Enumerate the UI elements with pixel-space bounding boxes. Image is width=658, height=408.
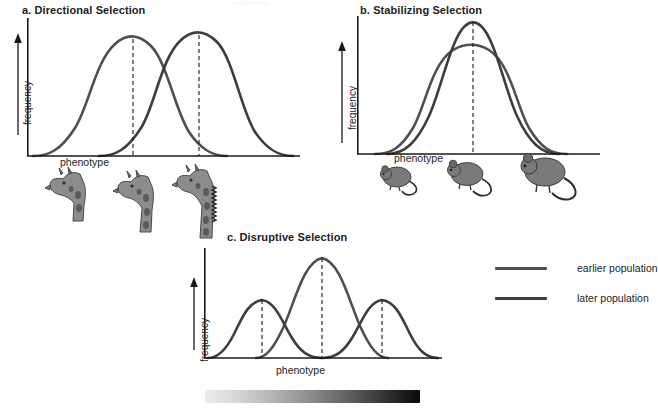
panel-directional-selection: a. Directional Selection frequency pheno… [0,0,310,230]
panel-c-xlabel: phenotype [276,364,325,376]
organism-medium-mouse [442,158,506,198]
panel-c-curve-later [208,300,438,358]
legend: earlier population later population [495,262,615,314]
panel-c-title: c. Disruptive Selection [227,231,347,243]
phenotype-gradient-bar [205,390,420,403]
legend-swatch-later [495,297,547,300]
organism-small-mouse [375,163,429,197]
organism-large-mouse [515,152,593,202]
panel-stabilizing-selection: b. Stabilizing Selection frequency pheno… [320,0,620,225]
legend-item-later-population: later population [495,292,649,304]
organism-short-neck-giraffe [33,165,99,223]
panel-b-plot [357,16,602,156]
legend-item-earlier-population: earlier population [495,262,658,274]
panel-a-title: a. Directional Selection [22,4,145,16]
organism-medium-neck-giraffe [101,168,167,234]
panel-disruptive-selection: c. Disruptive Selection frequency phenot… [175,228,445,408]
panel-a-plot [27,18,302,158]
panel-b-title: b. Stabilizing Selection [360,4,482,16]
legend-label-earlier: earlier population [577,262,658,274]
panel-a-curve-later [99,32,293,156]
panel-b-curve-earlier [375,45,567,154]
legend-swatch-earlier [495,267,547,270]
legend-label-later: later population [577,292,649,304]
panel-c-plot [204,248,444,360]
panel-a-curve-earlier [33,36,227,156]
